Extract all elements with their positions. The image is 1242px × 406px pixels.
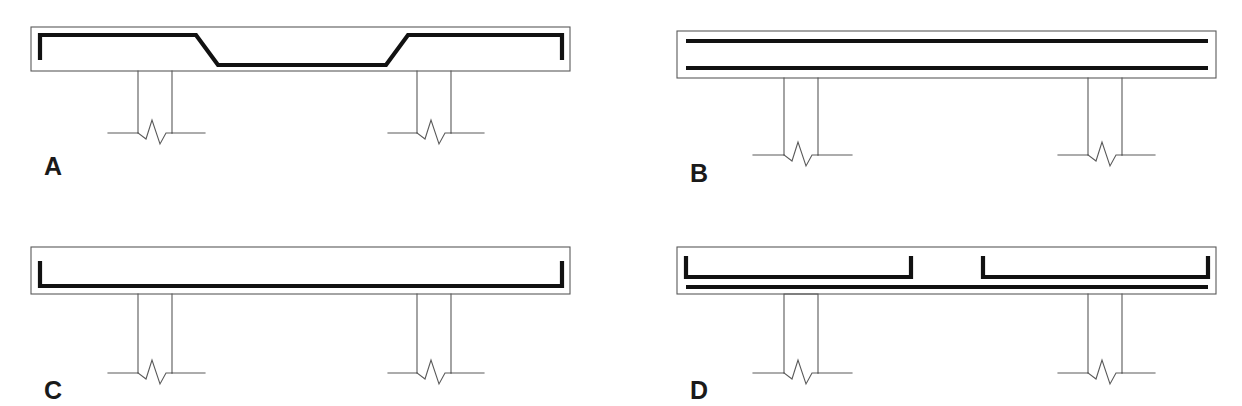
break-symbol-left — [784, 142, 818, 166]
rebar-top-left-segment — [686, 256, 911, 277]
break-symbol-left — [784, 360, 818, 384]
panel-d: D — [621, 203, 1242, 406]
panel-label-d: D — [690, 376, 709, 404]
column-left — [138, 71, 172, 133]
panel-c: C — [0, 203, 621, 406]
column-left — [138, 294, 172, 373]
rebar-top-right-segment — [983, 256, 1208, 277]
column-left-capped — [784, 294, 818, 373]
break-symbol-left — [138, 120, 172, 144]
panel-b: B — [621, 0, 1242, 203]
column-left — [784, 78, 818, 155]
column-right — [1088, 294, 1122, 373]
panel-label-b: B — [690, 159, 709, 187]
slab-outline — [677, 31, 1216, 78]
break-symbol-right — [1088, 142, 1122, 166]
break-symbol-left — [138, 360, 172, 384]
panel-label-c: C — [44, 376, 63, 404]
column-right — [417, 294, 451, 373]
rebar-cranked — [40, 35, 562, 65]
break-symbol-right — [1088, 360, 1122, 384]
panel-a: A — [0, 0, 621, 203]
panel-label-a: A — [44, 152, 63, 180]
column-right — [417, 71, 451, 133]
break-symbol-right — [417, 360, 451, 384]
column-right — [1088, 78, 1122, 155]
break-symbol-right — [417, 120, 451, 144]
reinforcement-figure: A B — [0, 0, 1242, 406]
rebar-bottom-hooked — [40, 261, 562, 286]
